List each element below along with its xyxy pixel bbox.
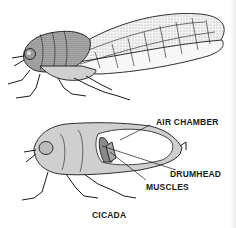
cicada-cutaway-illustration <box>0 0 236 228</box>
muscles-label: MUSCLES <box>146 182 189 192</box>
cutaway-body <box>34 123 182 175</box>
drumhead-label: DRUMHEAD <box>170 169 221 179</box>
air-chamber-label: AIR CHAMBER <box>156 117 219 127</box>
diagram-title: CICADA <box>92 210 126 220</box>
